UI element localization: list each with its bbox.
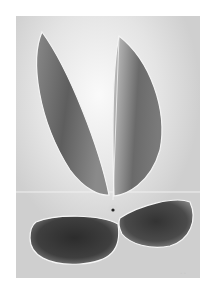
signature: ~ ~ bbox=[180, 271, 186, 275]
artwork: ~ ~ bbox=[0, 0, 215, 287]
center-dot bbox=[111, 208, 114, 211]
drawing: ~ ~ bbox=[0, 0, 215, 287]
left-oval bbox=[30, 216, 119, 264]
